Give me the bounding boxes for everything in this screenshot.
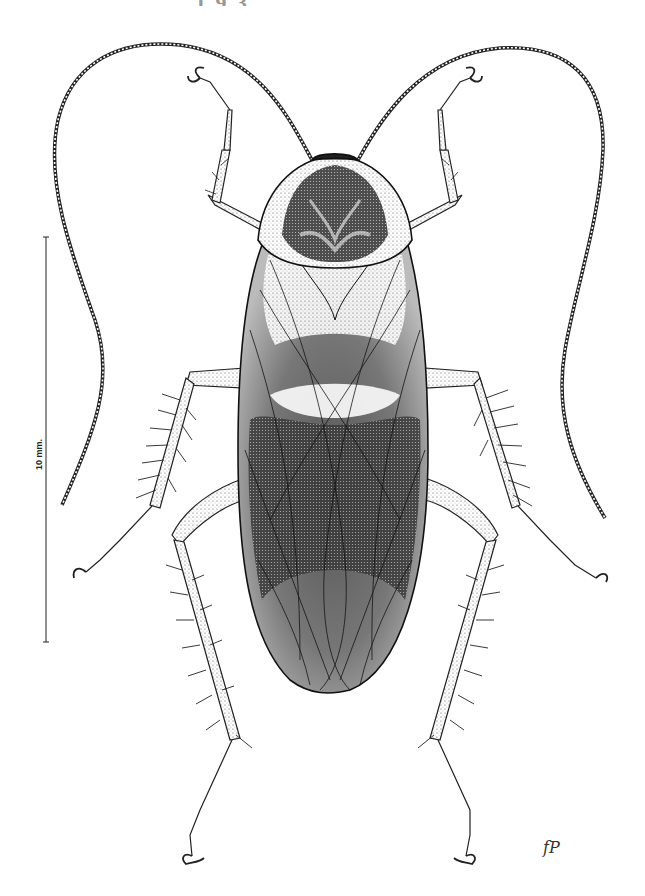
right-front-leg xyxy=(400,67,482,235)
head xyxy=(312,154,358,160)
left-hind-leg xyxy=(166,478,252,864)
right-hind-leg xyxy=(418,478,504,864)
wings xyxy=(238,245,428,693)
illustration-canvas: ... ...................., 1 9 3. xyxy=(0,0,645,896)
cockroach-drawing xyxy=(0,0,645,896)
artist-signature: fP xyxy=(543,838,560,857)
pronotum xyxy=(258,155,412,268)
scale-bar-label: 10 mm. xyxy=(34,439,44,470)
right-middle-leg xyxy=(425,368,607,582)
left-front-leg xyxy=(188,67,270,235)
header-text-fragment: ... ...................., 1 9 3. xyxy=(0,0,400,6)
